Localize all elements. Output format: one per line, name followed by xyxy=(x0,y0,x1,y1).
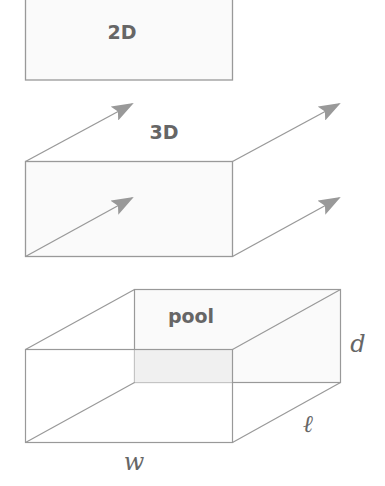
panel-3d: 3D xyxy=(26,104,340,257)
depth-arrow-top-right xyxy=(233,104,340,162)
label-pool: pool xyxy=(168,305,214,327)
label-length-l: ℓ xyxy=(303,410,313,438)
dimensions-diagram: 2D 3D pool d ℓ w xyxy=(0,0,385,486)
panel-pool: pool d ℓ w xyxy=(26,290,366,477)
pool-edge-top-left xyxy=(26,290,135,350)
label-width-w: w xyxy=(124,448,145,476)
front-face-3d xyxy=(26,162,233,257)
panel-2d: 2D xyxy=(26,0,233,80)
pool-overlap-shade xyxy=(135,350,233,383)
depth-arrow-bottom-right xyxy=(233,198,340,257)
label-depth-d: d xyxy=(350,330,365,358)
pool-edge-bottom-left xyxy=(26,383,135,443)
label-3d: 3D xyxy=(150,121,179,143)
pool-edge-bottom-right xyxy=(233,383,341,443)
depth-arrow-top-left xyxy=(26,104,133,162)
label-2d: 2D xyxy=(108,21,137,43)
